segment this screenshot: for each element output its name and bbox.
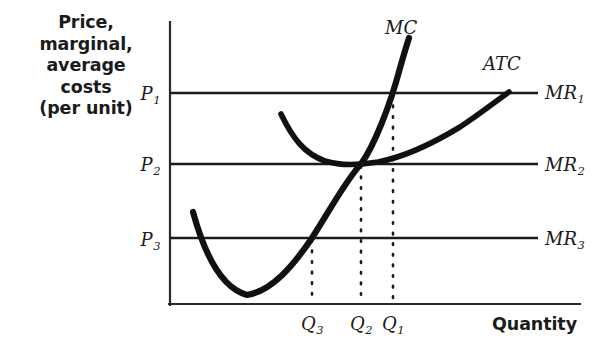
p3-base: P [141,229,153,250]
mr2-subscript: 2 [577,164,584,178]
y-axis-label-line-4: costs [60,77,111,97]
y-axis-label-line-3: average [46,55,125,75]
q3-subscript: 3 [316,323,323,337]
curve-label-mr3: MR3 [545,228,584,249]
q1-subscript: 1 [397,323,404,337]
mr3-subscript: 3 [577,238,584,252]
curve-label-mr2: MR2 [545,154,584,175]
curve-label-mr1: MR1 [545,82,584,103]
y-axis-label-line-2: marginal, [39,34,132,54]
y-axis-label-line-5: (per unit) [39,98,132,118]
mr1-base: MR [545,82,577,103]
economics-cost-curve-figure: Price,marginal,averagecosts(per unit) P1… [0,0,607,354]
y-tick-label-p1: P1 [120,83,160,104]
p1-subscript: 1 [153,93,160,107]
p2-subscript: 2 [153,164,160,178]
curve-label-atc: ATC [483,53,521,74]
mc-curve [193,38,409,295]
q2-subscript: 2 [365,323,372,337]
q3-base: Q [301,313,316,334]
y-axis-label-line-1: Price, [58,12,114,32]
x-tick-label-q1: Q1 [373,313,413,334]
curve-label-mc: MC [385,17,417,38]
x-axis-label: Quantity [492,314,577,334]
q1-base: Q [382,313,397,334]
mr1-subscript: 1 [577,92,584,106]
q2-base: Q [350,313,365,334]
mr3-base: MR [545,228,577,249]
p3-subscript: 3 [153,239,160,253]
y-tick-label-p3: P3 [120,229,160,250]
atc-curve [281,92,509,165]
y-tick-label-p2: P2 [120,154,160,175]
p2-base: P [141,154,153,175]
mr2-base: MR [545,154,577,175]
x-tick-label-q3: Q3 [292,313,332,334]
p1-base: P [141,83,153,104]
